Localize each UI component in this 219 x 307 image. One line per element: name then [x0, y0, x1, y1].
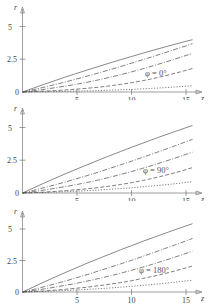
y-axis-title: r [14, 207, 18, 216]
plot-panel-phi-0: r z 5 2.5 0 5 10 15 φ = 0° [0, 0, 219, 100]
x-ticklabel-15: 15 [182, 296, 190, 305]
multi-panel-figure: r z 5 2.5 0 5 10 15 φ = 0° [0, 0, 219, 307]
x-ticklabel-5: 5 [75, 197, 79, 201]
y-ticklabel-2p5: 2.5 [7, 257, 17, 266]
x-ticklabel-10: 10 [128, 197, 136, 201]
curve-2 [23, 44, 193, 92]
curve-1 [23, 126, 193, 194]
y-ticklabel-0: 0 [15, 288, 19, 297]
x-ticklabel-10: 10 [128, 96, 136, 100]
panel-1-svg: r z 5 2.5 0 5 10 15 φ = 90° [0, 101, 219, 201]
y-ticklabel-5: 5 [8, 225, 12, 234]
panel-0-curves [23, 40, 193, 92]
panel-1-curves [23, 126, 193, 194]
plot-panel-phi-90: r z 5 2.5 0 5 10 15 φ = 90° [0, 101, 219, 201]
x-axis-title: z [200, 294, 205, 303]
y-ticklabel-0: 0 [15, 88, 19, 97]
x-ticklabel-15: 15 [182, 197, 190, 201]
panel-1-axes [20, 108, 203, 196]
curve-5 [23, 280, 193, 292]
x-ticklabel-5: 5 [75, 296, 79, 305]
y-ticklabel-2p5: 2.5 [7, 156, 17, 165]
y-ticklabel-2p5: 2.5 [7, 55, 17, 64]
plot-panel-phi-180: r z 5 2.5 0 5 10 15 φ = 180° [0, 204, 219, 304]
y-ticklabel-5: 5 [8, 124, 12, 133]
curve-1 [23, 40, 193, 92]
panel-label-phi: φ = 0° [145, 68, 167, 78]
panel-2-svg: r z 5 2.5 0 5 10 15 φ = 180° [0, 204, 219, 307]
panel-2-labels: r z 5 2.5 0 5 10 15 φ = 180° [7, 207, 205, 305]
panel-2-axes [20, 211, 203, 295]
curve-5 [23, 182, 193, 193]
x-ticklabel-10: 10 [128, 296, 136, 305]
curve-1 [23, 224, 193, 292]
panel-label-phi: φ = 180° [139, 265, 169, 275]
y-axis-title: r [14, 3, 18, 12]
panel-label-phi: φ = 90° [143, 165, 169, 175]
panel-2-curves [23, 224, 193, 292]
y-ticklabel-0: 0 [15, 189, 19, 198]
y-axis-title: r [14, 104, 18, 113]
x-ticklabel-5: 5 [75, 96, 79, 100]
y-ticklabel-5: 5 [8, 23, 12, 32]
x-ticklabel-15: 15 [182, 96, 190, 100]
panel-0-axes [20, 7, 203, 95]
x-axis-title: z [200, 195, 205, 201]
panel-0-labels: r z 5 2.5 0 5 10 15 φ = 0° [7, 3, 205, 100]
x-axis-title: z [200, 94, 205, 100]
panel-0-svg: r z 5 2.5 0 5 10 15 φ = 0° [0, 0, 219, 100]
